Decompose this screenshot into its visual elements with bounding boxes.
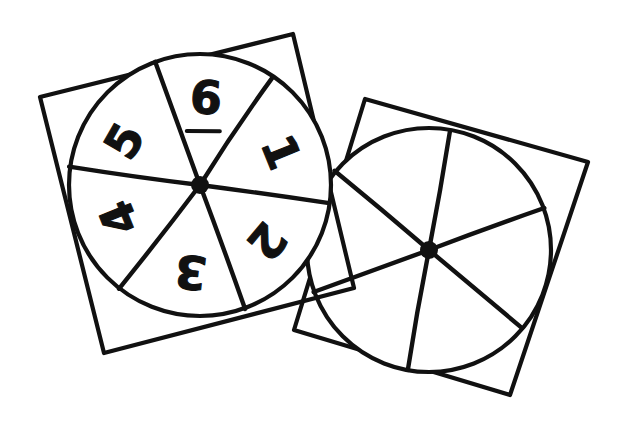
figure-canvas: 123456 xyxy=(0,0,635,425)
left-spinner-group: 123456 xyxy=(40,34,354,353)
sector-number-3: 3 xyxy=(172,243,209,300)
right-spinner-pivot-dot xyxy=(420,241,438,259)
sector-number-group: 3 xyxy=(172,243,209,300)
sector-number-6: 6 xyxy=(188,70,224,126)
spinners-illustration: 123456 xyxy=(0,0,635,425)
right-spinner-group xyxy=(294,99,588,395)
sector-number-underline xyxy=(187,129,220,133)
left-spinner-pivot-dot xyxy=(191,176,209,194)
sector-number-group: 6 xyxy=(187,70,224,134)
